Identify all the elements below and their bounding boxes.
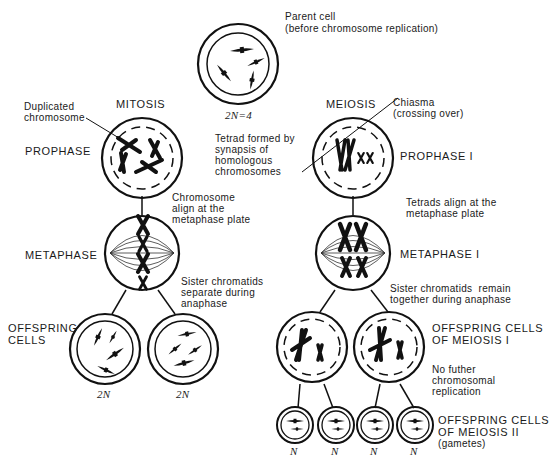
gamete-cell-1 — [277, 407, 313, 443]
gamete-ploidy-2: N — [331, 445, 339, 457]
meiosis1-offspring-label-1: OFFSPRING CELLS — [432, 322, 543, 334]
no-replication-note-3: replication — [432, 386, 481, 398]
mitosis-offspring-cell-2 — [148, 314, 218, 384]
mitosis-prophase-cell — [86, 118, 182, 198]
mitosis-align-note-3: metaphase plate — [172, 214, 250, 226]
meiosis-metaphase-label: METAPHASE I — [400, 248, 480, 260]
mitosis-separate-note-3: anaphase — [181, 298, 227, 310]
meiosis-align-note-2: metaphase plate — [406, 208, 484, 220]
gamete-ploidy-3: N — [370, 445, 378, 457]
meiosis-prophase-cell — [302, 98, 398, 198]
mitosis-offspring-cell-1 — [70, 314, 140, 384]
gamete-ploidy-1: N — [290, 445, 298, 457]
meiosis-title: MEIOSIS — [326, 98, 376, 110]
tetrad-label-4: chromosomes — [215, 166, 281, 178]
meiosis1-offspring-label-2: OF MEIOSIS I — [432, 334, 510, 346]
mitosis-prophase-label: PROPHASE — [25, 145, 91, 157]
gamete-cell-3 — [357, 407, 393, 443]
meiosis-metaphase-cell — [316, 216, 390, 290]
parent-ploidy: 2N=4 — [225, 109, 252, 121]
meiosis1-offspring-cell-2 — [354, 312, 424, 382]
parent-cell — [198, 24, 278, 104]
mitosis-metaphase-cell — [105, 216, 179, 290]
meiosis1-offspring-cell-1 — [277, 312, 347, 382]
gamete-cell-2 — [318, 407, 354, 443]
gamete-ploidy-4: N — [410, 445, 418, 457]
meiosis-prophase-label: PROPHASE I — [400, 150, 473, 162]
mitosis-title: MITOSIS — [116, 98, 165, 110]
mitosis-connectors — [112, 196, 175, 314]
meiosis2-offspring-label-3: (gametes) — [438, 438, 486, 450]
mitosis-offspring-label-2: CELLS — [8, 334, 46, 346]
mitosis-metaphase-label: METAPHASE — [25, 249, 97, 261]
chiasma-label-2: (crossing over) — [393, 108, 464, 120]
mitosis-offspring-ploidy-2: 2N — [176, 388, 189, 400]
parent-cell-sublabel: (before chromosome replication) — [285, 23, 438, 35]
duplicated-chromosome-label-2: chromosome — [24, 112, 85, 124]
meiosis2-offspring-label-2: OF MEIOSIS II — [438, 426, 519, 438]
meiosis2-offspring-label-1: OFFSPRING CELLS — [438, 414, 549, 426]
gamete-cell-4 — [397, 407, 433, 443]
meiosis-together-note-2: together during anaphase — [390, 294, 511, 306]
parent-cell-label: Parent cell — [285, 11, 336, 23]
mitosis-offspring-ploidy-1: 2N — [97, 388, 110, 400]
mitosis-offspring-label-1: OFFSPRING — [8, 322, 78, 334]
